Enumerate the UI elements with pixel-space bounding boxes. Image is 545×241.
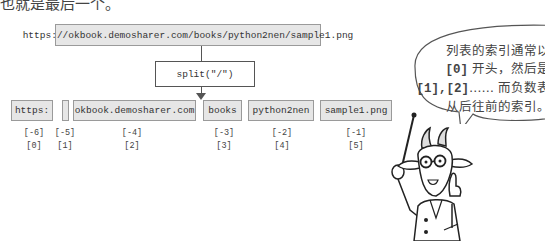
pos-index-3: [3] bbox=[212, 141, 236, 151]
neg-index-3: [-3] bbox=[212, 128, 236, 138]
pos-index-2: [2] bbox=[120, 141, 144, 151]
intro-text: 也就是最后一个。 bbox=[0, 0, 120, 13]
neg-index-2: [-4] bbox=[120, 128, 144, 138]
neg-index-5: [-1] bbox=[344, 128, 368, 138]
split-operation-box: split("/") bbox=[155, 61, 255, 87]
part-box-3: books bbox=[203, 100, 242, 121]
pos-index-4: [4] bbox=[270, 141, 294, 151]
bubble-line-2: [0] 开头，然后是 bbox=[410, 60, 545, 79]
bubble-line-3: [1],[2]…… 而负数表 bbox=[410, 79, 545, 98]
down-arrow-icon bbox=[196, 93, 206, 100]
part-box-4: python2nen bbox=[248, 100, 314, 121]
connector-line-top bbox=[201, 46, 202, 61]
goat-teacher-icon bbox=[380, 100, 545, 241]
part-box-1 bbox=[62, 100, 69, 121]
url-box: https://okbook.demosharer.com/books/pyth… bbox=[55, 24, 321, 46]
pos-index-1: [1] bbox=[53, 141, 77, 151]
part-box-2: okbook.demosharer.com bbox=[73, 100, 196, 121]
pos-index-0: [0] bbox=[22, 141, 46, 151]
neg-index-0: [-6] bbox=[22, 128, 46, 138]
neg-index-1: [-5] bbox=[53, 128, 77, 138]
pos-index-5: [5] bbox=[344, 141, 368, 151]
bubble-line-1: 列表的索引通常以 bbox=[410, 42, 545, 60]
part-box-0: https: bbox=[11, 100, 53, 121]
neg-index-4: [-2] bbox=[270, 128, 294, 138]
